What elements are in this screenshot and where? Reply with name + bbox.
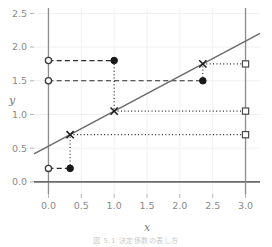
y-tick-label: 0.5 xyxy=(12,143,27,154)
y-tick-label: 0.0 xyxy=(12,176,27,187)
x-tick-label: 3.0 xyxy=(238,200,253,211)
y-tick-label: 2.0 xyxy=(12,41,27,52)
x-tick-label: 0.0 xyxy=(41,200,56,211)
marker-open-square xyxy=(242,132,248,138)
marker-filled-circle xyxy=(111,57,118,64)
y-tick-label: 2.5 xyxy=(12,8,27,19)
x-tick-label: 1.5 xyxy=(139,200,154,211)
marker-open-circle xyxy=(45,57,51,63)
y-tick-label: 1.0 xyxy=(12,109,27,120)
marker-open-square xyxy=(242,61,248,67)
y-axis-label: y xyxy=(8,94,16,107)
x-tick-label: 2.5 xyxy=(205,200,220,211)
figure-container: 0.00.51.01.52.02.53.00.00.51.01.52.02.5 … xyxy=(0,0,272,247)
marker-open-square xyxy=(242,108,248,114)
figure-caption: 図 5.1 決定係数の表し方 xyxy=(0,236,272,247)
x-tick-label: 0.5 xyxy=(74,200,89,211)
x-tick-label: 2.0 xyxy=(172,200,187,211)
marker-open-circle xyxy=(45,165,51,171)
x-tick-label: 1.0 xyxy=(107,200,122,211)
x-axis-label: x xyxy=(144,221,151,234)
scatter-plot: 0.00.51.01.52.02.53.00.00.51.01.52.02.5 … xyxy=(0,0,272,247)
marker-open-circle xyxy=(45,78,51,84)
marker-filled-circle xyxy=(67,165,74,172)
marker-filled-circle xyxy=(200,77,207,84)
y-tick-label: 1.5 xyxy=(12,75,27,86)
